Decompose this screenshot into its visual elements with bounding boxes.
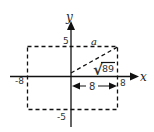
x-axis-arrowhead: [130, 73, 139, 81]
dimension-label: 8: [89, 81, 95, 92]
radicand: 89: [102, 63, 114, 74]
tick-label-x-8: 8: [120, 78, 126, 88]
segment-label-a: a: [91, 36, 97, 47]
coordinate-diagram: y x 5 -5 -8 8 a √ 89 8: [0, 0, 154, 132]
y-axis-label: y: [65, 10, 73, 24]
dimension-arrow-right: [109, 83, 117, 90]
dimension-arrow-left: [72, 83, 80, 90]
tick-label-x-neg8: -8: [15, 76, 24, 86]
dashed-rectangle: [28, 47, 118, 110]
tick-label-y-neg5: -5: [57, 112, 66, 122]
x-axis-label: x: [140, 70, 147, 84]
tick-label-y-5: 5: [63, 36, 69, 46]
